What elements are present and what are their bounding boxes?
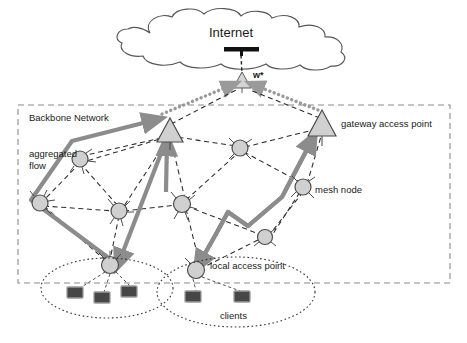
core-gateway-label: w* xyxy=(253,70,264,80)
core-gateway-node[interactable] xyxy=(233,72,251,93)
aggregated-flow-label-line1: aggregated xyxy=(29,149,77,160)
client-device[interactable] xyxy=(67,287,83,298)
client-device[interactable] xyxy=(94,292,110,303)
aggregated-flow-label-line2: flow xyxy=(29,161,46,172)
backbone-network-region xyxy=(18,105,450,283)
gateway-access-point-label: gateway access point xyxy=(341,119,432,130)
client-device[interactable] xyxy=(185,291,201,302)
client-links xyxy=(80,272,240,292)
aggregated-flow-to-core xyxy=(162,85,318,114)
backbone-network-label: Backbone Network xyxy=(29,113,109,124)
link-internet-to-core-gateway xyxy=(241,55,242,74)
network-diagram: Internet w* Backbone Network aggregated … xyxy=(0,0,467,343)
mesh-node-label: mesh node xyxy=(315,185,362,196)
client-device[interactable] xyxy=(121,286,137,297)
client-device[interactable] xyxy=(234,291,250,302)
internet-bar xyxy=(224,47,259,52)
aggregated-flow-path-left xyxy=(31,120,167,262)
gateway-access-point-left[interactable] xyxy=(157,118,183,150)
mesh-node-m6[interactable] xyxy=(291,176,315,198)
mesh-node-m5[interactable] xyxy=(229,138,252,159)
internet-label: Internet xyxy=(209,26,253,41)
clients-label: clients xyxy=(220,311,247,322)
mesh-node-m3[interactable] xyxy=(108,199,134,226)
backbone-uplinks xyxy=(171,90,320,124)
local-access-point-label: local access point xyxy=(210,261,285,272)
mesh-node-m4[interactable] xyxy=(171,192,197,220)
mesh-node-m7[interactable] xyxy=(254,228,276,246)
client-devices xyxy=(67,286,250,303)
diagram-canvas xyxy=(0,0,467,343)
